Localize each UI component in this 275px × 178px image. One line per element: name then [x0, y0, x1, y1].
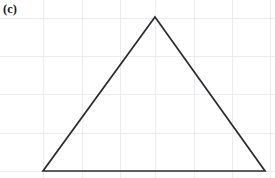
- triangle-outline: [43, 17, 265, 171]
- figure-panel: (c): [0, 0, 275, 178]
- triangle-shape: [0, 0, 275, 178]
- panel-label: (c): [3, 2, 17, 17]
